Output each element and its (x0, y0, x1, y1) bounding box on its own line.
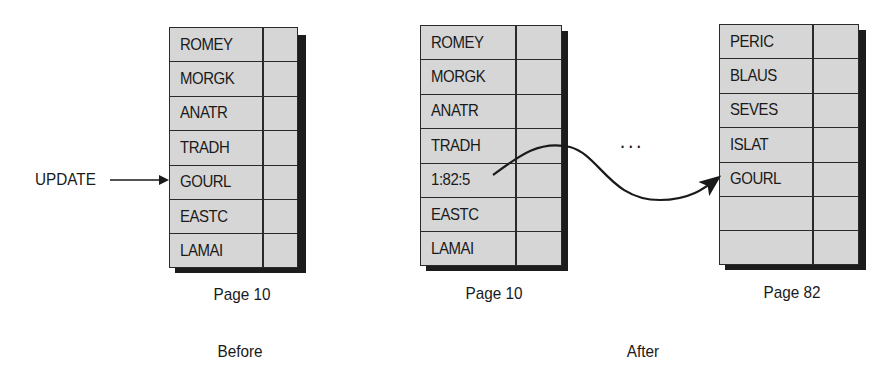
arrows-layer (0, 0, 893, 380)
forwarding-pointer-arrow-icon (493, 145, 718, 200)
